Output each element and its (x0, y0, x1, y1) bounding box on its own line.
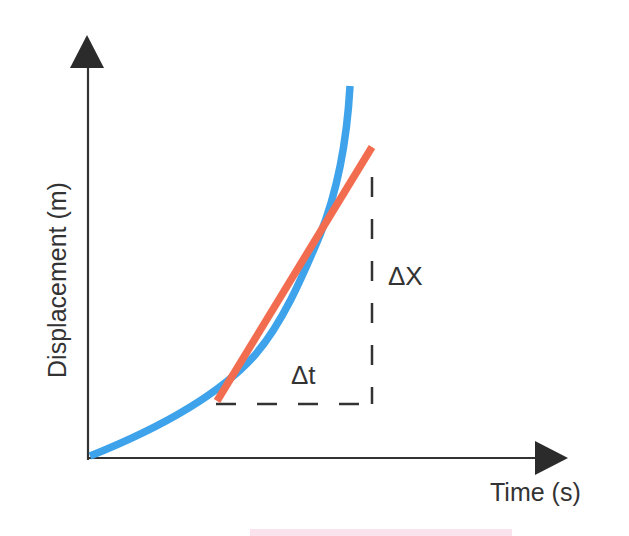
y-axis-arrowhead-icon (70, 35, 104, 68)
scan-artifact-strip (250, 529, 512, 536)
delta-t-label: Δt (291, 360, 316, 391)
x-axis-arrowhead-icon (535, 441, 568, 475)
y-axis-label: Displacement (m) (43, 182, 72, 378)
delta-x-label: ΔX (388, 261, 423, 292)
x-axis-label: Time (s) (490, 478, 581, 507)
diagram-canvas (0, 0, 629, 536)
displacement-time-diagram: Displacement (m) Time (s) ΔX Δt (0, 0, 629, 536)
